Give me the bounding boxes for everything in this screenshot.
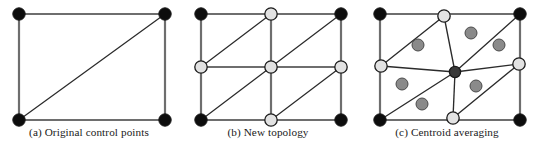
mesh-center-to-right xyxy=(455,64,519,72)
node-corner-bottom-right xyxy=(159,114,171,126)
node-corner-top-left xyxy=(195,8,207,20)
node-edge-midpoint-right xyxy=(513,58,525,70)
mesh-bottomleft-to-center xyxy=(380,72,455,120)
node-corner-top-left xyxy=(13,8,25,20)
node-corner-bottom-left xyxy=(374,114,386,126)
mesh-bottom-to-right xyxy=(453,64,519,118)
mesh-center-to-topright xyxy=(455,14,520,72)
panel-c-canvas xyxy=(358,0,536,132)
panel-b-caption: (b) New topology xyxy=(179,126,357,138)
mesh-top-to-center xyxy=(444,16,455,72)
panel-new-topology: (b) New topology xyxy=(179,0,357,154)
panel-original-control-points: (a) Original control points xyxy=(0,0,178,154)
panel-a-canvas xyxy=(0,0,178,132)
node-edge-midpoint-bottom xyxy=(447,112,459,124)
node-edge-midpoint-left xyxy=(195,61,207,73)
diagonal-quadrant-bottom-right xyxy=(271,67,341,120)
node-edge-midpoint-left xyxy=(375,60,387,72)
node-face-center xyxy=(265,61,277,73)
diagonal-quadrant-top-right xyxy=(271,14,341,67)
node-corner-bottom-right xyxy=(514,114,526,126)
node-edge-midpoint-top xyxy=(438,10,450,22)
node-edge-midpoint-bottom xyxy=(265,114,277,126)
node-corner-top-left xyxy=(374,8,386,20)
diagonal-quadrant-bottom-left xyxy=(201,67,271,120)
centroid-marker-3 xyxy=(493,39,505,51)
panel-c-caption: (c) Centroid averaging xyxy=(358,126,536,138)
centroid-marker-5 xyxy=(470,80,482,92)
mesh-left-to-center xyxy=(381,66,455,72)
centroid-marker-6 xyxy=(416,98,428,110)
node-corner-bottom-right xyxy=(335,114,347,126)
node-corner-top-right xyxy=(335,8,347,20)
panel-a-caption: (a) Original control points xyxy=(0,126,178,138)
node-edge-midpoint-right xyxy=(335,61,347,73)
node-face-center-averaged xyxy=(449,66,460,77)
panel-b-canvas xyxy=(179,0,357,132)
centroid-marker-2 xyxy=(465,27,477,39)
node-corner-bottom-left xyxy=(13,114,25,126)
panel-centroid-averaging: (c) Centroid averaging xyxy=(358,0,536,154)
node-corner-bottom-left xyxy=(195,114,207,126)
mesh-left-to-top xyxy=(381,16,444,66)
diagonal-main xyxy=(19,14,165,120)
diagonal-quadrant-top-left xyxy=(201,14,271,67)
node-corner-top-right xyxy=(159,8,171,20)
figure-container: (a) Original control points (b) New topo… xyxy=(0,0,536,154)
centroid-marker-4 xyxy=(396,78,408,90)
node-edge-midpoint-top xyxy=(265,8,277,20)
node-corner-top-right xyxy=(514,8,526,20)
mesh-center-to-bottom xyxy=(453,72,455,118)
centroid-marker-1 xyxy=(412,39,424,51)
